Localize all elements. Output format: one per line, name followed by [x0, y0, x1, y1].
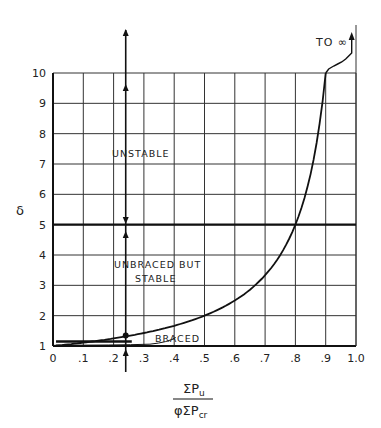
y-tick-label: 4	[39, 249, 46, 262]
y-tick-label: 1	[39, 340, 46, 353]
label-stable: STABLE	[135, 273, 176, 284]
arrow-up-icon	[123, 231, 129, 238]
chart-canvas: 0.1.2.3.4.5.6.7.8.91.012345678910 UNSTAB…	[0, 0, 381, 428]
y-tick-label: 6	[39, 188, 46, 201]
x-tick-label: .9	[320, 352, 331, 365]
y-tick-label: 5	[39, 219, 46, 232]
arrow-up-icon	[123, 29, 129, 36]
arrow-down-icon	[123, 217, 129, 224]
label-unbraced: UNBRACED BUT	[114, 259, 201, 270]
arrow-up-icon	[123, 349, 129, 356]
y-tick-label: 10	[32, 67, 46, 80]
axis-ticks: 0.1.2.3.4.5.6.7.8.91.012345678910	[32, 67, 365, 365]
x-tick-label: .4	[169, 352, 180, 365]
y-tick-label: 3	[39, 279, 46, 292]
label-to-infinity: TO ∞	[315, 36, 348, 49]
y-tick-label: 2	[39, 310, 46, 323]
y-tick-label: 9	[39, 97, 46, 110]
x-tick-label: .2	[108, 352, 119, 365]
x-label-numerator: ΣPu	[183, 381, 205, 398]
y-tick-label: 7	[39, 158, 46, 171]
x-tick-label: .1	[78, 352, 89, 365]
arrow-up-icon	[349, 32, 355, 40]
x-tick-label: 1.0	[347, 352, 365, 365]
x-tick-label: 0	[50, 352, 57, 365]
label-unstable: UNSTABLE	[112, 148, 169, 159]
x-tick-label: .5	[199, 352, 210, 365]
annotations: UNSTABLE UNBRACED BUT STABLE BRACED TO ∞…	[16, 36, 348, 344]
grid-lines	[53, 73, 356, 346]
y-tick-label: 8	[39, 128, 46, 141]
x-tick-label: .3	[139, 352, 150, 365]
x-axis-label: ΣPu φΣPcr	[173, 381, 213, 420]
arrow-up-icon	[123, 84, 129, 91]
data-curve	[53, 73, 326, 346]
x-tick-label: .8	[290, 352, 301, 365]
y-axis-label: δ	[16, 203, 24, 218]
label-braced: BRACED	[155, 333, 200, 344]
x-tick-label: .7	[260, 352, 271, 365]
x-tick-label: .6	[230, 352, 241, 365]
x-label-denominator: φΣPcr	[174, 403, 208, 420]
